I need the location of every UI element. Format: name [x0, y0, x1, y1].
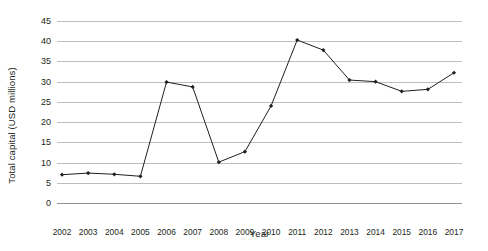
y-tick-label-5: 5 — [11, 178, 57, 188]
line-chart: Total capital (USD millions) 05101520253… — [0, 0, 488, 251]
data-point-2007 — [191, 85, 195, 89]
y-tick-label-45: 45 — [11, 16, 57, 26]
data-point-2009 — [243, 150, 247, 154]
y-tick-label-25: 25 — [11, 97, 57, 107]
gridline-0 — [57, 203, 462, 204]
data-point-2005 — [138, 174, 142, 178]
data-point-2008 — [217, 160, 221, 164]
data-point-2014 — [374, 80, 378, 84]
data-point-2011 — [295, 38, 299, 42]
y-tick-label-40: 40 — [11, 36, 57, 46]
y-tick-label-30: 30 — [11, 77, 57, 87]
data-point-2003 — [86, 171, 90, 175]
data-point-2010 — [269, 104, 273, 108]
data-series-total-capital — [57, 21, 462, 203]
series-markers — [60, 38, 456, 178]
data-point-2002 — [60, 173, 64, 177]
x-axis-title: Year — [57, 228, 462, 239]
data-point-2004 — [112, 172, 116, 176]
plot-area: 051015202530354045 200220032004200520062… — [57, 21, 462, 203]
y-tick-label-15: 15 — [11, 137, 57, 147]
data-point-2015 — [400, 89, 404, 93]
y-tick-label-10: 10 — [11, 158, 57, 168]
y-tick-label-0: 0 — [11, 198, 57, 208]
data-point-2006 — [164, 80, 168, 84]
series-line — [62, 40, 454, 176]
y-tick-label-20: 20 — [11, 117, 57, 127]
y-tick-label-35: 35 — [11, 56, 57, 66]
